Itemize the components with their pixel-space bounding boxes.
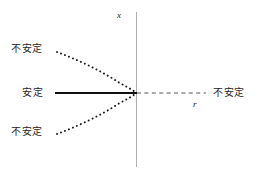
label-unstable-bottom: 不安定 [11,127,43,137]
label-unstable-top: 不安定 [11,44,43,54]
label-stable-middle: 安定 [22,88,43,98]
bifurcation-diagram: x r 不安定 安定 不安定 不安定 [0,0,256,176]
label-unstable-right: 不安定 [213,88,245,98]
unstable-upper-branch-curve [57,52,137,93]
unstable-lower-branch-curve [57,93,137,134]
